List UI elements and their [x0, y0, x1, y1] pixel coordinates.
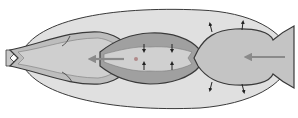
- dot: [134, 57, 138, 61]
- diagram: [0, 0, 298, 118]
